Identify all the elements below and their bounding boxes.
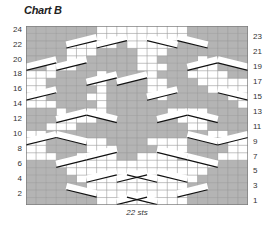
shaded-cell <box>56 101 66 109</box>
row-number-right: 23 <box>253 33 271 41</box>
shaded-cell <box>56 78 66 86</box>
row-number-left: 8 <box>4 145 22 153</box>
shaded-cell <box>147 116 157 124</box>
shaded-cell <box>218 48 228 56</box>
shaded-cell <box>187 86 197 94</box>
shaded-cell <box>117 48 127 56</box>
shaded-cell <box>208 123 218 131</box>
shaded-cell <box>87 101 97 109</box>
shaded-cell <box>56 183 66 191</box>
shaded-cell <box>177 93 187 101</box>
shaded-cell <box>127 145 137 153</box>
shaded-cell <box>117 101 127 109</box>
shaded-cell <box>36 116 46 124</box>
shaded-cell <box>66 175 76 183</box>
shaded-cell <box>228 183 238 191</box>
shaded-cell <box>97 63 107 71</box>
shaded-cell <box>228 108 238 116</box>
shaded-cell <box>127 123 137 131</box>
shaded-cell <box>36 160 46 168</box>
shaded-cell <box>127 86 137 94</box>
shaded-cell <box>198 175 208 183</box>
shaded-cell <box>238 175 248 183</box>
shaded-cell <box>56 93 66 101</box>
shaded-cell <box>87 56 97 64</box>
shaded-cell <box>218 123 228 131</box>
row-number-left: 10 <box>4 130 22 138</box>
shaded-cell <box>56 41 66 49</box>
shaded-cell <box>66 93 76 101</box>
shaded-cell <box>177 130 187 138</box>
shaded-cell <box>87 123 97 131</box>
shaded-cell <box>26 190 36 198</box>
shaded-cell <box>208 168 218 176</box>
shaded-cell <box>228 33 238 41</box>
row-number-left: 6 <box>4 160 22 168</box>
shaded-cell <box>218 175 228 183</box>
shaded-cell <box>218 116 228 124</box>
shaded-cell <box>117 93 127 101</box>
shaded-cell <box>218 41 228 49</box>
row-number-right: 17 <box>253 78 271 86</box>
shaded-cell <box>107 48 117 56</box>
shaded-cell <box>177 101 187 109</box>
row-number-right: 21 <box>253 48 271 56</box>
shaded-cell <box>218 168 228 176</box>
shaded-cell <box>238 183 248 191</box>
shaded-cell <box>208 175 218 183</box>
shaded-cell <box>97 48 107 56</box>
shaded-cell <box>228 26 238 34</box>
shaded-cell <box>76 123 86 131</box>
shaded-cell <box>208 26 218 34</box>
shaded-cell <box>137 101 147 109</box>
shaded-cell <box>228 175 238 183</box>
shaded-cell <box>46 145 56 153</box>
shaded-cell <box>76 93 86 101</box>
row-number-right: 13 <box>253 108 271 116</box>
shaded-cell <box>198 198 208 205</box>
shaded-cell <box>107 86 117 94</box>
shaded-cell <box>167 63 177 71</box>
shaded-cell <box>137 86 147 94</box>
shaded-cell <box>228 101 238 109</box>
shaded-cell <box>26 26 36 34</box>
shaded-cell <box>167 71 177 79</box>
shaded-cell <box>117 153 127 161</box>
row-number-left: 22 <box>4 41 22 49</box>
shaded-cell <box>36 123 46 131</box>
shaded-cell <box>26 123 36 131</box>
shaded-cell <box>36 26 46 34</box>
shaded-cell <box>97 56 107 64</box>
shaded-cell <box>66 101 76 109</box>
shaded-cell <box>177 56 187 64</box>
shaded-cell <box>238 123 248 131</box>
shaded-cell <box>87 198 97 205</box>
shaded-cell <box>137 145 147 153</box>
shaded-cell <box>127 48 137 56</box>
row-number-right: 5 <box>253 167 271 175</box>
shaded-cell <box>127 153 137 161</box>
shaded-cell <box>56 33 66 41</box>
shaded-cell <box>117 63 127 71</box>
shaded-cell <box>177 86 187 94</box>
shaded-cell <box>46 198 56 205</box>
shaded-cell <box>218 101 228 109</box>
row-number-left: 20 <box>4 56 22 64</box>
shaded-cell <box>97 130 107 138</box>
shaded-cell <box>36 190 46 198</box>
shaded-cell <box>137 130 147 138</box>
shaded-cell <box>97 123 107 131</box>
shaded-cell <box>87 86 97 94</box>
shaded-cell <box>228 198 238 205</box>
shaded-cell <box>137 123 147 131</box>
shaded-cell <box>198 145 208 153</box>
shaded-cell <box>117 108 127 116</box>
shaded-cell <box>46 160 56 168</box>
shaded-cell <box>76 101 86 109</box>
shaded-cell <box>76 26 86 34</box>
shaded-cell <box>26 198 36 205</box>
shaded-cell <box>36 175 46 183</box>
row-number-right: 7 <box>253 153 271 161</box>
shaded-cell <box>36 48 46 56</box>
shaded-cell <box>87 63 97 71</box>
